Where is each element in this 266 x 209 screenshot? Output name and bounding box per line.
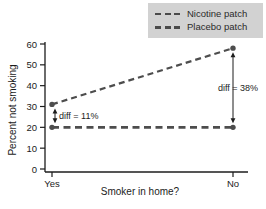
y-axis-label: Percent not smoking <box>7 64 18 155</box>
arrowhead-down-icon <box>231 118 236 123</box>
legend: Nicotine patch Placebo patch <box>148 3 263 38</box>
y-tick-label: 50 <box>26 59 37 70</box>
placebo-dashed-line-icon <box>155 26 181 29</box>
diff-annotation-label: diff = 11% <box>59 111 98 121</box>
diff-annotation-label: diff = 38% <box>218 83 258 93</box>
data-point <box>49 125 54 130</box>
legend-label-placebo: Placebo patch <box>187 21 247 33</box>
arrowhead-down-icon <box>53 118 58 123</box>
series-line-0 <box>52 48 233 104</box>
data-point <box>49 102 54 107</box>
legend-label-nicotine: Nicotine patch <box>187 8 247 20</box>
nicotine-dashed-line-icon <box>155 13 181 15</box>
data-point <box>230 125 235 130</box>
y-tick-label: 30 <box>26 101 37 112</box>
arrowhead-up-icon <box>53 108 58 113</box>
arrowhead-up-icon <box>231 52 236 57</box>
legend-item-placebo: Placebo patch <box>155 21 259 33</box>
y-tick-label: 40 <box>26 80 37 91</box>
x-axis-label: Smoker in home? <box>45 186 235 197</box>
y-tick-label: 60 <box>26 39 37 50</box>
y-tick-label: 10 <box>26 143 37 154</box>
chart-figure: 0102030405060YesNodiff = 11%diff = 38% P… <box>0 0 266 209</box>
data-point <box>230 45 235 50</box>
y-tick-label: 0 <box>32 164 37 175</box>
y-tick-label: 20 <box>26 122 37 133</box>
legend-item-nicotine: Nicotine patch <box>155 8 259 20</box>
